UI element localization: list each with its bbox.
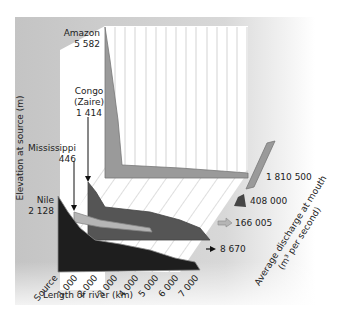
label-mississippi-elev: 446 bbox=[59, 154, 76, 164]
label-amazon-name: Amazon bbox=[64, 28, 100, 38]
label-congo-elev: 1 414 bbox=[76, 108, 102, 118]
label-mississippi-name: Mississippi bbox=[28, 143, 76, 153]
label-amazon-elev: 5 582 bbox=[74, 39, 100, 49]
label-mississippi-discharge: 166 005 bbox=[235, 218, 272, 228]
x-axis-label: Length of river (km) bbox=[43, 290, 133, 300]
label-congo-discharge: 408 000 bbox=[250, 196, 287, 206]
label-amazon-discharge: 1 810 500 bbox=[266, 172, 312, 182]
label-nile-elev: 2 128 bbox=[28, 206, 54, 216]
label-nile-name: Nile bbox=[37, 195, 55, 205]
label-congo-name-2: (Zaire) bbox=[74, 97, 104, 107]
river-profile-chart: Amazon 5 582 Congo (Zaire) 1 414 Mississ… bbox=[0, 0, 341, 312]
label-congo-name: Congo bbox=[75, 86, 104, 96]
label-nile-discharge: 8 670 bbox=[220, 244, 246, 254]
y-axis-label: Elevation at source (m) bbox=[15, 95, 25, 200]
